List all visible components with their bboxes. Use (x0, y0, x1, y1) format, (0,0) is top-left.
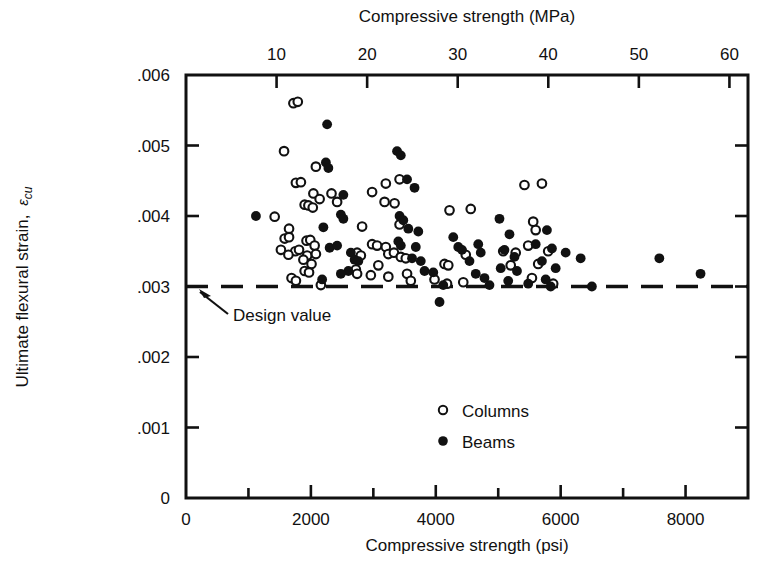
data-point-beams (503, 276, 513, 286)
data-point-columns (284, 250, 293, 259)
data-point-columns (292, 277, 301, 286)
data-point-beams (448, 232, 458, 242)
data-point-beams (323, 163, 333, 173)
data-point-columns (307, 260, 316, 269)
data-point-columns (312, 250, 321, 259)
data-point-beams (338, 190, 348, 200)
data-point-beams (512, 266, 522, 276)
bottom-axis-title: Compressive strength (psi) (365, 536, 568, 555)
data-point-beams (485, 280, 495, 290)
y-tick-label: 0 (161, 489, 170, 508)
data-point-columns (285, 224, 294, 233)
data-point-beams (471, 269, 481, 279)
data-point-beams (413, 227, 423, 237)
data-point-beams (561, 248, 571, 258)
top-tick-label: 40 (539, 45, 558, 64)
data-point-beams (332, 241, 342, 251)
data-point-columns (285, 233, 294, 242)
y-tick-label: .006 (137, 66, 170, 85)
legend-label-columns: Columns (462, 402, 529, 421)
y-tick-label: .005 (137, 137, 170, 156)
top-tick-label: 60 (720, 45, 739, 64)
data-point-beams (416, 256, 426, 266)
data-point-beams (402, 174, 412, 184)
data-point-columns (280, 147, 289, 156)
data-point-columns (367, 271, 376, 280)
y-axis-title: Ultimate flexural strain, εcu (13, 186, 35, 387)
data-point-beams (505, 229, 515, 239)
data-point-beams (428, 268, 438, 278)
data-point-columns (531, 226, 540, 235)
data-point-columns (293, 97, 302, 106)
data-point-columns (333, 198, 342, 207)
bottom-tick-label: 2000 (292, 510, 330, 529)
top-tick-label: 50 (629, 45, 648, 64)
legend-label-beams: Beams (462, 433, 515, 452)
data-point-beams (551, 263, 561, 273)
data-point-columns (444, 261, 453, 270)
data-point-beams (537, 256, 547, 266)
data-point-beams (473, 239, 483, 249)
legend-marker-beams (438, 436, 448, 446)
data-point-beams (696, 269, 706, 279)
y-tick-label: .001 (137, 419, 170, 438)
data-point-columns (529, 217, 538, 226)
data-point-beams (317, 275, 327, 285)
data-point-beams (403, 224, 413, 234)
data-point-beams (495, 214, 505, 224)
data-point-beams (398, 215, 408, 225)
data-point-beams (546, 282, 556, 292)
data-point-beams (411, 242, 421, 252)
bottom-tick-label: 6000 (542, 510, 580, 529)
data-point-columns (407, 277, 416, 286)
data-point-columns (297, 178, 306, 187)
y-tick-label: .004 (137, 207, 170, 226)
data-point-beams (531, 239, 541, 249)
data-point-columns (310, 241, 319, 250)
bottom-tick-label: 8000 (667, 510, 705, 529)
data-point-beams (251, 211, 261, 221)
bottom-tick-label: 4000 (417, 510, 455, 529)
data-point-beams (523, 279, 533, 289)
y-tick-label: .003 (137, 278, 170, 297)
data-point-columns (308, 203, 317, 212)
data-point-beams (576, 253, 586, 263)
data-point-beams (438, 280, 448, 290)
data-point-beams (476, 248, 486, 258)
data-point-columns (373, 241, 382, 250)
data-point-columns (380, 198, 389, 207)
data-point-columns (305, 268, 314, 277)
data-point-beams (407, 253, 417, 263)
data-point-columns (368, 188, 377, 197)
data-point-columns (315, 195, 324, 204)
data-point-columns (538, 179, 547, 188)
data-point-beams (465, 256, 475, 266)
data-point-beams (435, 297, 445, 307)
data-point-columns (327, 189, 336, 198)
data-point-columns (445, 206, 454, 215)
data-point-beams (547, 244, 557, 254)
data-point-beams (410, 183, 420, 193)
data-point-beams (500, 245, 510, 255)
data-point-beams (396, 150, 406, 160)
bottom-tick-label: 0 (181, 510, 190, 529)
data-point-columns (270, 212, 279, 221)
figure-container: Compressive strength (MPa) 102030405060 … (0, 0, 763, 571)
top-tick-label: 30 (448, 45, 467, 64)
data-point-columns (384, 272, 393, 281)
data-point-beams (457, 245, 467, 255)
data-point-beams (396, 241, 406, 251)
data-point-columns (520, 181, 529, 190)
top-tick-label: 10 (267, 45, 286, 64)
data-point-beams (587, 282, 597, 292)
data-point-beams (338, 214, 348, 224)
data-point-columns (382, 179, 391, 188)
legend-marker-columns (439, 406, 447, 414)
data-point-beams (654, 253, 664, 263)
data-point-columns (374, 261, 383, 270)
top-axis-title: Compressive strength (MPa) (359, 7, 575, 26)
data-point-beams (353, 256, 363, 266)
scatter-chart: Compressive strength (MPa) 102030405060 … (0, 0, 763, 571)
data-point-columns (466, 205, 475, 214)
data-point-columns (312, 162, 321, 171)
